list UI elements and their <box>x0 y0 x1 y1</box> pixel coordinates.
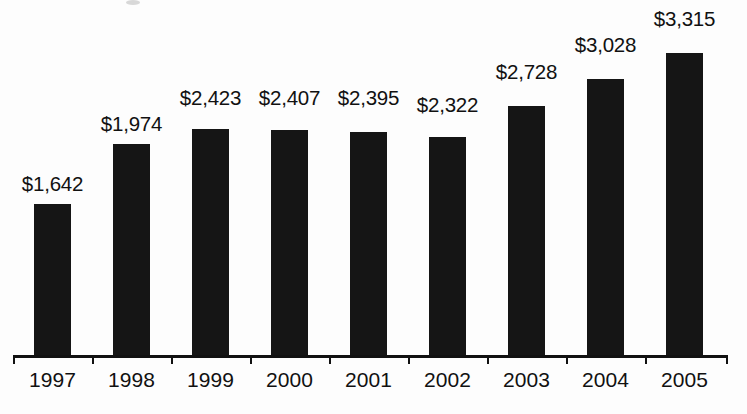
bar <box>666 53 703 357</box>
bar-group: $2,728 <box>487 0 566 357</box>
x-axis-tick-labels: 199719981999200020012002200320042005 <box>0 368 747 402</box>
bar-value-label: $1,642 <box>13 172 92 196</box>
plot-area: $1,642$1,974$2,423$2,407$2,395$2,322$2,7… <box>0 0 747 357</box>
axis-tick-mark <box>171 355 173 364</box>
bar-value-label: $2,423 <box>171 86 250 110</box>
x-tick-label: 2005 <box>645 368 724 392</box>
axis-tick-mark <box>250 355 252 364</box>
bar-group: $2,395 <box>329 0 408 357</box>
bar-group: $3,028 <box>566 0 645 357</box>
x-tick-label: 1999 <box>171 368 250 392</box>
bar <box>587 79 624 357</box>
x-tick-label: 2004 <box>566 368 645 392</box>
axis-tick-mark <box>487 355 489 364</box>
axis-tick-mark <box>726 355 728 364</box>
bar-value-label: $2,407 <box>250 86 329 110</box>
bar-value-label: $3,315 <box>645 7 724 31</box>
bar-value-label: $3,028 <box>566 33 645 57</box>
axis-tick-mark <box>329 355 331 364</box>
bar-value-label: $2,322 <box>408 93 487 117</box>
bar <box>192 129 229 357</box>
x-axis-line <box>13 355 727 358</box>
axis-tick-mark <box>645 355 647 364</box>
bar <box>508 106 545 357</box>
bar-group: $1,974 <box>92 0 171 357</box>
bar-chart: $1,642$1,974$2,423$2,407$2,395$2,322$2,7… <box>0 0 747 414</box>
x-tick-label: 2000 <box>250 368 329 392</box>
axis-tick-mark <box>566 355 568 364</box>
bar <box>271 130 308 357</box>
bar <box>34 204 71 357</box>
bar-group: $2,423 <box>171 0 250 357</box>
bar <box>350 132 387 357</box>
x-tick-label: 1998 <box>92 368 171 392</box>
x-tick-label: 2002 <box>408 368 487 392</box>
bar-group: $2,407 <box>250 0 329 357</box>
x-tick-label: 2003 <box>487 368 566 392</box>
bar-group: $1,642 <box>13 0 92 357</box>
bar-group: $2,322 <box>408 0 487 357</box>
axis-tick-mark <box>408 355 410 364</box>
bar-group: $3,315 <box>645 0 724 357</box>
bar <box>113 144 150 357</box>
bar-value-label: $2,728 <box>487 60 566 84</box>
x-tick-label: 2001 <box>329 368 408 392</box>
bar-value-label: $1,974 <box>92 112 171 136</box>
bar <box>429 137 466 357</box>
x-tick-label: 1997 <box>13 368 92 392</box>
axis-tick-mark <box>13 355 15 364</box>
bar-value-label: $2,395 <box>329 86 408 110</box>
axis-tick-mark <box>92 355 94 364</box>
